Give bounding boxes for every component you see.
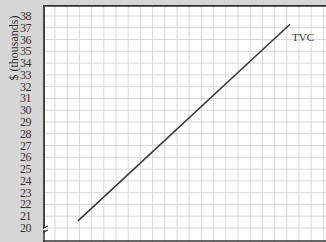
y-tick-label: 38 <box>20 10 41 22</box>
y-tick-label: 33 <box>20 69 41 81</box>
y-tick-label: 28 <box>20 128 41 140</box>
y-tick-label: 29 <box>20 116 41 128</box>
series-label-tvc: TVC <box>292 31 314 43</box>
chart-svg <box>43 5 326 242</box>
y-tick-label: 31 <box>20 92 41 104</box>
y-tick-label: 26 <box>20 151 41 163</box>
y-tick-label: 34 <box>20 57 41 69</box>
y-tick-label: 30 <box>20 104 41 116</box>
y-tick-label: 24 <box>20 175 41 187</box>
y-tick-label: 21 <box>20 210 41 222</box>
y-tick-label: 35 <box>20 45 41 57</box>
y-tick-label: 37 <box>20 22 41 34</box>
y-tick-label: 27 <box>20 140 41 152</box>
y-tick-label: 20 <box>20 222 41 234</box>
y-tick-label: 22 <box>20 198 41 210</box>
y-tick-label: 32 <box>20 81 41 93</box>
y-tick-label: 25 <box>20 163 41 175</box>
plot-area <box>43 5 326 242</box>
y-tick-label: 23 <box>20 187 41 199</box>
y-tick-label: 36 <box>20 34 41 46</box>
